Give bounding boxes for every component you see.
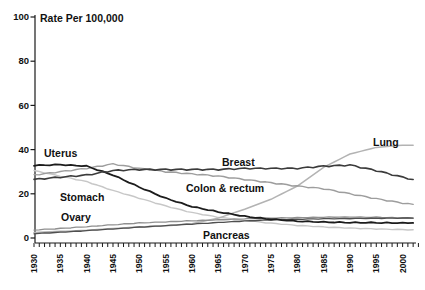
x-tick-label: 1990 bbox=[345, 254, 355, 273]
y-tick-label: 100 bbox=[13, 11, 29, 22]
x-tick-label: 1975 bbox=[266, 254, 276, 273]
y-tick-label: 0 bbox=[24, 232, 29, 243]
x-tick-label: 1940 bbox=[82, 254, 92, 273]
x-tick-label: 1945 bbox=[108, 254, 118, 273]
x-tick-label: 1950 bbox=[134, 254, 144, 273]
x-tick-label: 1955 bbox=[161, 254, 171, 273]
series-label-lung: Lung bbox=[373, 136, 399, 148]
y-tick-label: 80 bbox=[18, 55, 29, 66]
y-tick-label: 20 bbox=[18, 188, 29, 199]
line-chart: 0204060801001930193519401945195019551960… bbox=[0, 0, 425, 290]
y-tick-label: 40 bbox=[18, 144, 29, 155]
series-label-colon-rectum: Colon & rectum bbox=[186, 182, 264, 194]
x-tick-label: 2000 bbox=[398, 254, 408, 273]
series-label-breast: Breast bbox=[222, 156, 255, 168]
series-label-pancreas: Pancreas bbox=[203, 229, 250, 241]
chart-title: Rate Per 100,000 bbox=[40, 12, 124, 24]
x-tick-label: 1930 bbox=[29, 254, 39, 273]
series-label-uterus: Uterus bbox=[44, 147, 77, 159]
y-tick-label: 60 bbox=[18, 100, 29, 111]
x-tick-label: 1970 bbox=[240, 254, 250, 273]
series-label-stomach: Stomach bbox=[60, 191, 104, 203]
x-tick-label: 1935 bbox=[55, 254, 65, 273]
x-tick-label: 1995 bbox=[371, 254, 381, 273]
cancer-death-rates-figure: 0204060801001930193519401945195019551960… bbox=[0, 0, 425, 290]
x-tick-label: 1980 bbox=[292, 254, 302, 273]
series-label-ovary: Ovary bbox=[61, 211, 91, 223]
x-tick-label: 1960 bbox=[187, 254, 197, 273]
x-tick-label: 1985 bbox=[319, 254, 329, 273]
x-tick-label: 1965 bbox=[213, 254, 223, 273]
